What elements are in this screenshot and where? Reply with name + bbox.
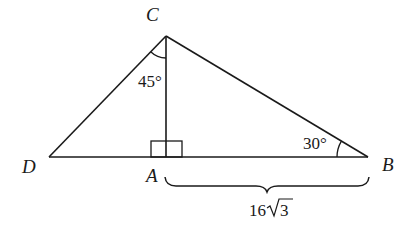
angle-label-B: 30° <box>303 134 327 153</box>
segment-CD <box>49 36 166 157</box>
label-C: C <box>146 4 159 25</box>
diagram-canvas: C D A B 45° 30° 16 3 <box>0 0 411 227</box>
angle-arc-C <box>151 52 166 58</box>
length-label-number: 16 <box>249 201 266 220</box>
label-D: D <box>21 156 36 177</box>
label-A: A <box>144 165 158 186</box>
angle-arc-B <box>337 141 341 157</box>
label-B: B <box>382 154 394 175</box>
triangle-diagram: C D A B 45° 30° 16 3 <box>0 0 411 227</box>
angle-label-C: 45° <box>138 72 162 91</box>
length-label-radicand: 3 <box>280 201 289 220</box>
segment-CB <box>166 36 368 157</box>
length-brace <box>165 177 369 192</box>
